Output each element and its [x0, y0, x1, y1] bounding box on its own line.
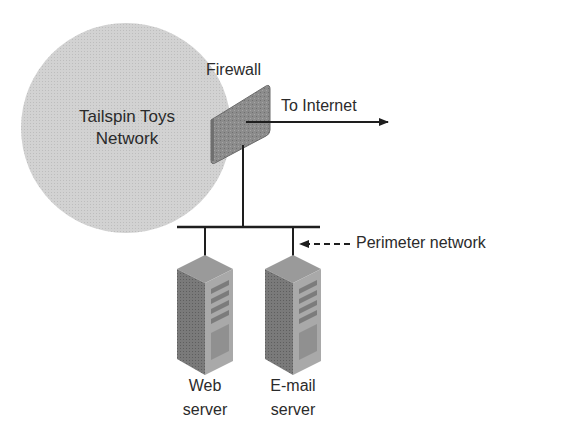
network-diagram: Tailspin Toys Network Firewall To Intern… — [0, 0, 577, 436]
web-server-label: Web server — [170, 374, 240, 422]
network-label-line1: Tailspin Toys — [52, 106, 202, 128]
internet-label: To Internet — [281, 96, 357, 115]
diagram-canvas — [0, 0, 577, 436]
network-label-line2: Network — [52, 128, 202, 150]
web-server-label-line1: Web — [170, 374, 240, 398]
network-label: Tailspin Toys Network — [52, 106, 202, 150]
web-server-label-line2: server — [170, 398, 240, 422]
email-server-label: E-mail server — [258, 374, 328, 422]
web-server-icon — [177, 255, 233, 375]
email-server-label-line2: server — [258, 398, 328, 422]
email-server-icon — [265, 255, 321, 375]
email-server-label-line1: E-mail — [258, 374, 328, 398]
firewall-label: Firewall — [206, 60, 261, 79]
perimeter-label: Perimeter network — [356, 233, 486, 252]
